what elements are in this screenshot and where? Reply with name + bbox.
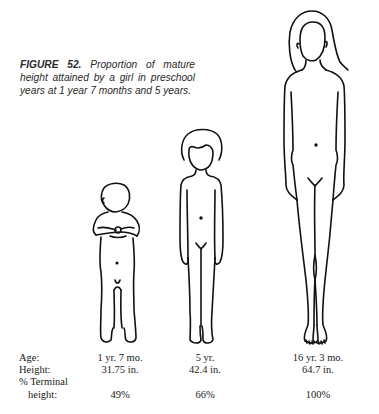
measurement-table: Age: Height: % Terminal height: 1 yr. 7 … [0, 0, 379, 414]
height-value-adult: 64.7 in. [268, 364, 368, 375]
height-value-child: 42.4 in. [155, 364, 255, 375]
row-label-age: Age: [19, 352, 39, 363]
terminal-value-adult: 100% [268, 389, 368, 400]
row-label-terminal-2: height: [28, 389, 57, 400]
row-label-terminal-1: % Terminal [19, 376, 68, 387]
age-value-adult: 16 yr. 3 mo. [268, 352, 368, 363]
terminal-value-child: 66% [155, 389, 255, 400]
age-value-child: 5 yr. [155, 352, 255, 363]
row-label-height: Height: [19, 364, 51, 375]
